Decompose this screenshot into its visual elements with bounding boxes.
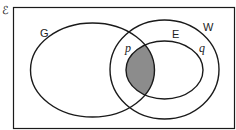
- set-w-label: W: [203, 21, 214, 33]
- element-p-label: p: [124, 41, 131, 55]
- set-e-label: E: [172, 28, 179, 40]
- set-g-label: G: [40, 27, 49, 39]
- venn-diagram: ℰ G W E p q: [0, 0, 236, 130]
- element-q-label: q: [199, 41, 205, 55]
- universal-set-symbol: ℰ: [2, 4, 9, 16]
